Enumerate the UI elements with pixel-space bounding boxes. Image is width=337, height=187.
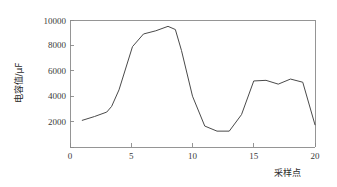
- x-tick-label-5: 5: [129, 151, 134, 161]
- plot-frame: [70, 20, 315, 147]
- data-series-capacitance: [82, 26, 315, 131]
- y-tick-label-2000: 2000: [48, 117, 67, 127]
- x-axis-ticks: [70, 143, 315, 147]
- x-tick-label-15: 15: [249, 151, 259, 161]
- line-chart: 2000 4000 6000 8000 10000 0 5 10 15 20 电…: [0, 0, 337, 187]
- y-axis-tick-labels: 2000 4000 6000 8000 10000: [44, 16, 67, 127]
- x-tick-label-0: 0: [68, 151, 73, 161]
- y-axis-ticks: [70, 20, 74, 147]
- x-axis-title: 采样点: [274, 167, 301, 178]
- y-tick-label-10000: 10000: [44, 16, 67, 26]
- y-tick-label-4000: 4000: [48, 91, 67, 101]
- y-tick-label-8000: 8000: [48, 40, 67, 50]
- y-tick-label-6000: 6000: [48, 66, 67, 76]
- y-axis-title: 电容值/μF: [13, 63, 24, 104]
- chart-figure: 2000 4000 6000 8000 10000 0 5 10 15 20 电…: [0, 0, 337, 187]
- x-tick-label-10: 10: [188, 151, 198, 161]
- x-tick-label-20: 20: [311, 151, 321, 161]
- x-axis-tick-labels: 0 5 10 15 20: [68, 151, 320, 161]
